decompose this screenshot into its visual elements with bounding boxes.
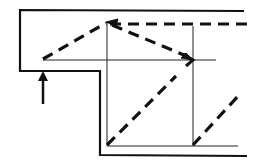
ray-diagram — [0, 0, 264, 165]
